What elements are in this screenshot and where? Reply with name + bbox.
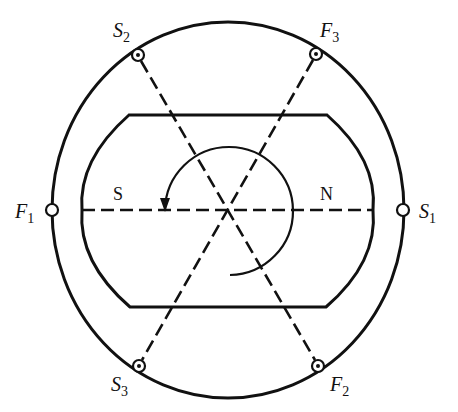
terminal-F1-marker <box>46 204 58 216</box>
winding-axes <box>82 60 373 360</box>
label-S3: S3 <box>111 373 128 399</box>
terminal-F3-dot-icon <box>314 52 318 56</box>
label-F1: F1 <box>14 200 34 226</box>
terminal-F2-dot-icon <box>316 364 320 368</box>
label-S2: S2 <box>113 19 130 45</box>
terminal-S2-dot-icon <box>136 53 140 57</box>
label-F2: F2 <box>329 373 349 399</box>
south-pole-label: S <box>113 184 123 204</box>
label-F3: F3 <box>319 19 339 45</box>
terminal-S3-dot-icon <box>137 364 141 368</box>
stator-rotor-diagram: F1 S1 S2 F3 S3 F2 S N <box>0 0 458 412</box>
north-pole-label: N <box>320 184 333 204</box>
label-S1: S1 <box>419 200 436 226</box>
terminal-S1-marker <box>397 204 409 216</box>
